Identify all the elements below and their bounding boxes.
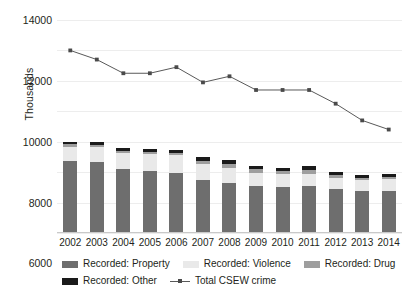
legend-label: Total CSEW crime <box>195 276 276 286</box>
stacked-bar <box>63 142 77 233</box>
legend-line-marker-icon <box>170 278 190 285</box>
bar-segment-recorded-violence <box>90 147 104 162</box>
bar-segment-recorded-property <box>355 191 369 233</box>
bar-segment-recorded-property <box>63 161 77 233</box>
stacked-bar <box>302 166 316 233</box>
bar-group-2004: 2004 <box>110 20 137 233</box>
x-tick-label-2009: 2009 <box>245 237 267 248</box>
bar-group-2014: 2014 <box>375 20 402 233</box>
bar-segment-recorded-violence <box>222 168 236 183</box>
bar-segment-recorded-violence <box>382 179 396 191</box>
x-tick-label-2004: 2004 <box>112 237 134 248</box>
bar-segment-recorded-property <box>249 186 263 233</box>
bar-group-2006: 2006 <box>163 20 190 233</box>
x-tick-label-2006: 2006 <box>165 237 187 248</box>
legend-swatch-icon <box>183 261 199 268</box>
y-tick-label-8000: 8000 <box>6 197 52 208</box>
x-tick-label-2003: 2003 <box>86 237 108 248</box>
stacked-bar <box>116 148 130 233</box>
legend-label: Recorded: Violence <box>204 259 291 269</box>
bar-segment-recorded-violence <box>169 155 183 172</box>
bar-segment-recorded-violence <box>329 178 343 189</box>
stacked-bar <box>169 150 183 234</box>
y-axis-title: Thousands <box>23 39 35 149</box>
stacked-bar <box>196 157 210 233</box>
bar-segment-recorded-violence <box>249 173 263 186</box>
x-tick-label-2011: 2011 <box>298 237 320 248</box>
bar-segment-recorded-property <box>143 171 157 233</box>
chart-legend: Recorded: PropertyRecorded: ViolenceReco… <box>62 259 404 293</box>
stacked-bar <box>249 166 263 233</box>
x-tick-label-2010: 2010 <box>271 237 293 248</box>
bar-segment-recorded-property <box>302 186 316 233</box>
stacked-bar <box>382 174 396 233</box>
bar-segment-recorded-violence <box>63 147 77 161</box>
x-tick-label-2012: 2012 <box>324 237 346 248</box>
bar-group-2003: 2003 <box>84 20 111 233</box>
bar-group-2013: 2013 <box>349 20 376 233</box>
bar-segment-recorded-property <box>196 180 210 233</box>
bar-segment-recorded-violence <box>302 174 316 187</box>
legend-label: Recorded: Property <box>83 259 170 269</box>
x-tick-label-2013: 2013 <box>351 237 373 248</box>
gridline-0: 0 <box>57 233 402 234</box>
bar-segment-recorded-property <box>222 183 236 233</box>
legend-swatch-icon <box>62 278 78 285</box>
y-tick-label-14000: 14000 <box>6 15 52 26</box>
legend-item-total-csew-crime[interactable]: Total CSEW crime <box>170 276 276 286</box>
x-tick-label-2014: 2014 <box>378 237 400 248</box>
bar-segment-recorded-violence <box>355 180 369 191</box>
x-axis-line <box>57 232 402 233</box>
legend-swatch-icon <box>62 261 78 268</box>
bar-group-2011: 2011 <box>296 20 323 233</box>
x-tick-label-2002: 2002 <box>59 237 81 248</box>
bar-segment-recorded-property <box>382 191 396 233</box>
bar-segment-recorded-violence <box>196 164 210 180</box>
stacked-bar <box>90 142 104 233</box>
y-tick-label-12000: 12000 <box>6 76 52 87</box>
bar-group-2008: 2008 <box>216 20 243 233</box>
bar-segment-recorded-property <box>90 162 104 233</box>
legend-swatch-icon <box>304 261 320 268</box>
bar-segment-recorded-property <box>276 187 290 233</box>
stacked-bar <box>355 175 369 233</box>
legend-row-secondary: Recorded: OtherTotal CSEW crime <box>62 276 404 286</box>
stacked-bar <box>143 149 157 233</box>
bar-segment-recorded-violence <box>116 153 130 169</box>
bar-segment-recorded-violence <box>276 174 290 187</box>
bar-group-2005: 2005 <box>137 20 164 233</box>
bar-series-group: 2002200320042005200620072008200920102011… <box>57 20 402 233</box>
y-tick-label-10000: 10000 <box>6 136 52 147</box>
bar-segment-recorded-violence <box>143 154 157 171</box>
crime-statistics-chart: Thousands 020004000600080001000012000140… <box>0 0 408 299</box>
legend-item-recorded-property[interactable]: Recorded: Property <box>62 259 170 269</box>
y-tick-label-6000: 6000 <box>6 258 52 269</box>
x-tick-label-2008: 2008 <box>218 237 240 248</box>
legend-label: Recorded: Other <box>83 276 157 286</box>
bar-segment-recorded-property <box>329 189 343 233</box>
bar-group-2007: 2007 <box>190 20 217 233</box>
stacked-bar <box>276 168 290 233</box>
legend-row-primary: Recorded: PropertyRecorded: ViolenceReco… <box>62 259 404 269</box>
bar-segment-recorded-property <box>116 169 130 233</box>
bar-group-2002: 2002 <box>57 20 84 233</box>
legend-item-recorded-drug[interactable]: Recorded: Drug <box>304 259 396 269</box>
legend-item-recorded-other[interactable]: Recorded: Other <box>62 276 157 286</box>
bar-group-2010: 2010 <box>269 20 296 233</box>
x-tick-label-2005: 2005 <box>139 237 161 248</box>
bar-group-2012: 2012 <box>322 20 349 233</box>
plot-area: 02000400060008000100001200014000 2002200… <box>57 20 402 233</box>
bar-segment-recorded-property <box>169 173 183 233</box>
legend-label: Recorded: Drug <box>325 259 396 269</box>
stacked-bar <box>329 172 343 233</box>
stacked-bar <box>222 160 236 233</box>
bar-group-2009: 2009 <box>243 20 270 233</box>
legend-item-recorded-violence[interactable]: Recorded: Violence <box>183 259 291 269</box>
x-tick-label-2007: 2007 <box>192 237 214 248</box>
